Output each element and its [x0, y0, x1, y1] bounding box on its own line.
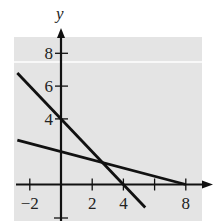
y-tick-label: 6 [45, 77, 54, 96]
x-tick-label: 4 [119, 194, 128, 213]
x-tick-label: 2 [88, 194, 97, 213]
coordinate-plane: y −2248 468 [0, 0, 213, 221]
y-axis-arrow-icon [57, 28, 65, 38]
x-tick-label: −2 [21, 194, 39, 213]
x-tick-label: 8 [182, 194, 191, 213]
y-tick-label: 8 [45, 44, 54, 63]
y-tick-label: 4 [45, 110, 54, 129]
shaded-background [14, 37, 202, 221]
y-axis-label: y [54, 4, 64, 23]
x-axis-arrow-icon [202, 181, 213, 189]
